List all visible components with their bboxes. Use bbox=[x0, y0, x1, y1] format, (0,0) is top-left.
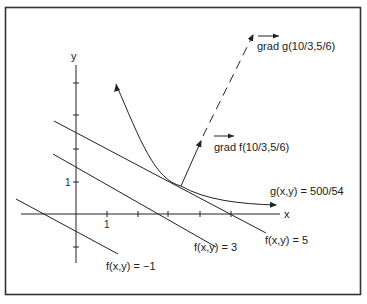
grad-g-vector bbox=[203, 35, 253, 136]
x-axis-label: x bbox=[284, 208, 290, 220]
y-tick-label-1: 1 bbox=[65, 177, 71, 188]
level-line-f-minus-1-label: f(x,y) = −1 bbox=[106, 260, 156, 272]
axes bbox=[21, 65, 280, 263]
level-line-f-5-label: f(x,y) = 5 bbox=[265, 234, 308, 246]
x-tick-label-1: 1 bbox=[104, 219, 110, 230]
level-line-f-5 bbox=[54, 121, 266, 233]
gradient-diagram: x y 1 1 f(x,y) = 5 f(x,y) = 3 f(x,y) = −… bbox=[0, 0, 367, 304]
y-axis-label: y bbox=[71, 50, 77, 62]
level-line-f-minus-1 bbox=[16, 199, 118, 254]
grad-g-label: grad g(10/3,5/6) bbox=[257, 40, 335, 52]
level-line-f-3-label: f(x,y) = 3 bbox=[194, 241, 237, 253]
level-line-f-3 bbox=[53, 154, 216, 247]
constraint-curve-label: g(x,y) = 500/54 bbox=[270, 185, 344, 197]
grad-f-label: grad f(10/3,5/6) bbox=[214, 141, 289, 153]
grad-f-vector bbox=[181, 141, 201, 186]
